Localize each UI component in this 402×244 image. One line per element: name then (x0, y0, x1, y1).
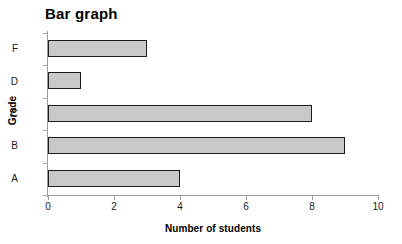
bar-b[interactable] (48, 137, 345, 154)
chart-title: Bar graph (45, 5, 118, 22)
x-axis-tick (378, 196, 379, 200)
bar-row (48, 33, 378, 65)
bar-row (48, 130, 378, 162)
x-axis-tick (114, 196, 115, 200)
x-tick-label-10: 10 (363, 201, 393, 212)
y-tick-label-f: F (0, 44, 18, 54)
x-axis-title: Number of students (48, 223, 378, 234)
bar-a[interactable] (48, 170, 180, 187)
bar-d[interactable] (48, 72, 81, 89)
y-axis-tick (43, 65, 48, 66)
y-axis-title: Grade (7, 85, 18, 137)
y-axis-tick (43, 130, 48, 131)
x-tick-label-8: 8 (297, 201, 327, 212)
y-axis-tick (43, 33, 48, 34)
bar-row (48, 65, 378, 97)
y-axis-tick (43, 98, 48, 99)
bar-chart: Bar graph FDCBA 0246810 Number of studen… (0, 0, 402, 244)
x-tick-label-6: 6 (231, 201, 261, 212)
y-tick-label-a: A (0, 174, 18, 184)
x-tick-label-4: 4 (165, 201, 195, 212)
x-tick-label-0: 0 (33, 201, 63, 212)
x-axis-tick (312, 196, 313, 200)
x-axis-tick (180, 196, 181, 200)
x-tick-label-2: 2 (99, 201, 129, 212)
x-axis-line (48, 195, 379, 196)
y-axis-tick (43, 163, 48, 164)
y-tick-label-b: B (0, 141, 18, 151)
x-axis-tick (246, 196, 247, 200)
bar-row (48, 163, 378, 195)
x-axis-tick (48, 196, 49, 200)
bar-f[interactable] (48, 40, 147, 57)
bar-c[interactable] (48, 105, 312, 122)
bar-row (48, 98, 378, 130)
